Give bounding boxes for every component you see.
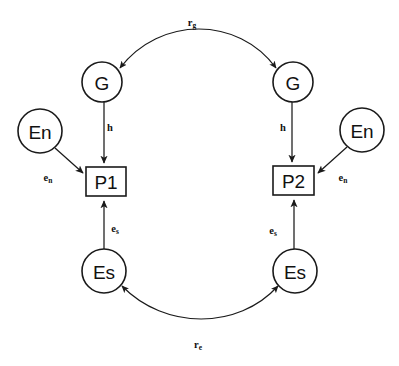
edge-label-es-left: es <box>111 223 119 236</box>
edge-label-re-sub: e <box>199 343 203 352</box>
diagram-canvas: G G En En P1 P2 Es <box>0 0 399 366</box>
edge-label-en-left: en <box>44 172 54 185</box>
node-en-left[interactable]: En <box>18 109 62 153</box>
node-p2-label: P2 <box>282 171 305 192</box>
edge-label-rg: rg <box>188 17 197 30</box>
edge-label-re: re <box>194 339 203 352</box>
node-p1-label: P1 <box>94 172 117 193</box>
node-en-right-label: En <box>350 121 373 142</box>
node-en-left-label: En <box>28 122 51 143</box>
node-g-left-label: G <box>95 73 110 94</box>
edge-label-en-left-sub: n <box>48 176 53 185</box>
edge-label-es-left-sub: s <box>116 227 119 236</box>
node-p2[interactable]: P2 <box>273 166 314 195</box>
edge-label-h-right-base: h <box>280 122 286 133</box>
node-g-right[interactable]: G <box>273 62 313 102</box>
edge-label-rg-sub: g <box>192 21 196 30</box>
edge-label-es-right: es <box>269 225 277 238</box>
edge-re-arc <box>122 286 278 319</box>
node-es-left[interactable]: Es <box>82 249 126 293</box>
edge-label-h-left-base: h <box>107 122 113 133</box>
edge-label-es-right-sub: s <box>274 229 277 238</box>
edge-en-right <box>318 147 347 173</box>
edge-label-h-left: h <box>107 122 113 133</box>
edge-label-en-right-sub: n <box>343 176 348 185</box>
node-g-right-label: G <box>286 73 301 94</box>
edge-rg-arc <box>120 29 276 68</box>
node-g-left[interactable]: G <box>82 62 122 102</box>
edge-en-left <box>55 148 83 173</box>
edge-label-en-right: en <box>339 172 349 185</box>
node-es-right[interactable]: Es <box>273 249 317 293</box>
diagram-root: G G En En P1 P2 Es <box>0 0 399 366</box>
node-p1[interactable]: P1 <box>86 167 126 196</box>
node-en-right[interactable]: En <box>340 108 384 152</box>
edge-label-h-right: h <box>280 122 286 133</box>
node-es-left-label: Es <box>93 262 115 283</box>
node-es-right-label: Es <box>284 262 306 283</box>
